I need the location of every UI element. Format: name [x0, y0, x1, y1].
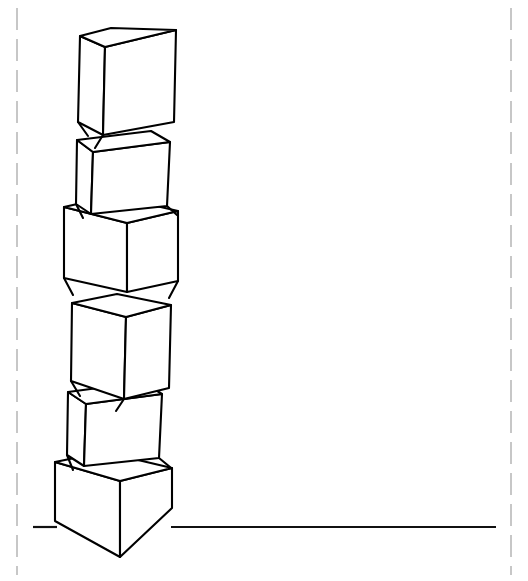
drawing-canvas	[0, 0, 528, 581]
cube-2-front-face	[91, 142, 170, 214]
cube-4-front-face	[124, 305, 171, 399]
cube-3-right-face	[127, 211, 178, 292]
cube-stack-scene	[0, 0, 528, 581]
cube-top	[78, 28, 176, 148]
cube-bottom-right-face	[120, 468, 172, 557]
cube-2	[76, 131, 177, 218]
cube-top-left-face	[78, 36, 105, 135]
cube-5-front-face	[84, 394, 162, 466]
cube-4-left-face	[71, 303, 126, 399]
